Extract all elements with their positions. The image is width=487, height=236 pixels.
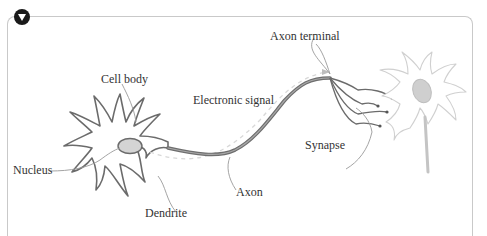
axon-terminals xyxy=(330,78,392,126)
target-axon-shape xyxy=(425,117,428,172)
nucleus-shape xyxy=(118,139,142,154)
label-electronic-signal: Electronic signal xyxy=(193,94,274,106)
label-synapse: Synapse xyxy=(305,139,345,151)
signal-path xyxy=(150,72,325,159)
cell-body-shape xyxy=(64,94,168,196)
label-axon-terminal: Axon terminal xyxy=(270,30,340,42)
label-axon: Axon xyxy=(236,186,263,198)
label-cell-body: Cell body xyxy=(101,73,148,85)
neuron-diagram xyxy=(0,0,487,236)
label-nucleus: Nucleus xyxy=(13,164,52,176)
label-dendrite: Dendrite xyxy=(145,207,187,219)
